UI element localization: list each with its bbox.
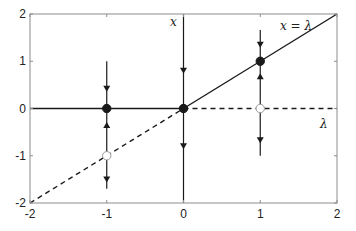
y-tick-label: 1 <box>19 54 26 68</box>
x-tick-label: 2 <box>334 207 341 221</box>
unstable-point <box>103 152 111 160</box>
x-tick-label: 0 <box>180 207 187 221</box>
bifurcation-chart: -2-1012-2-1012 xx = λλ <box>0 0 356 231</box>
plot-content <box>30 14 337 203</box>
y-tick-label: 0 <box>19 102 26 116</box>
stable-point <box>256 57 264 65</box>
x-axis-variable-label: x <box>170 15 177 29</box>
y-tick-label: -2 <box>15 196 26 210</box>
y-tick-label: -1 <box>15 149 26 163</box>
stable-point <box>103 104 111 112</box>
x-tick-label: -2 <box>25 207 36 221</box>
annotations: xx = λλ <box>170 15 328 131</box>
arrow-up-icon <box>103 122 110 128</box>
diagonal-branch-label: x = λ <box>280 19 312 33</box>
x-tick-label: 1 <box>257 207 264 221</box>
arrow-down-icon <box>180 68 187 74</box>
arrow-up-icon <box>257 73 264 79</box>
arrow-down-icon <box>180 143 187 149</box>
arrow-down-icon <box>103 86 110 92</box>
y-tick-label: 2 <box>19 7 26 21</box>
unstable-point <box>256 104 264 112</box>
x-tick-label: -1 <box>101 207 112 221</box>
arrow-down-icon <box>103 176 110 182</box>
arrow-down-icon <box>257 137 264 143</box>
arrow-down-icon <box>257 42 264 48</box>
stable-point <box>179 104 187 112</box>
tick-labels: -2-1012-2-1012 <box>15 7 340 221</box>
lambda-axis-label: λ <box>319 117 328 131</box>
